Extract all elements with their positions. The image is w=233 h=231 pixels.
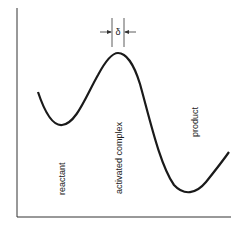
energy-diagram: δ reactant activated complex product xyxy=(0,0,233,231)
reactant-label: reactant xyxy=(57,162,67,195)
product-label: product xyxy=(190,106,200,137)
activated-complex-label: activated complex xyxy=(114,121,124,194)
delta-marker: δ xyxy=(100,18,136,47)
delta-label: δ xyxy=(115,27,120,37)
